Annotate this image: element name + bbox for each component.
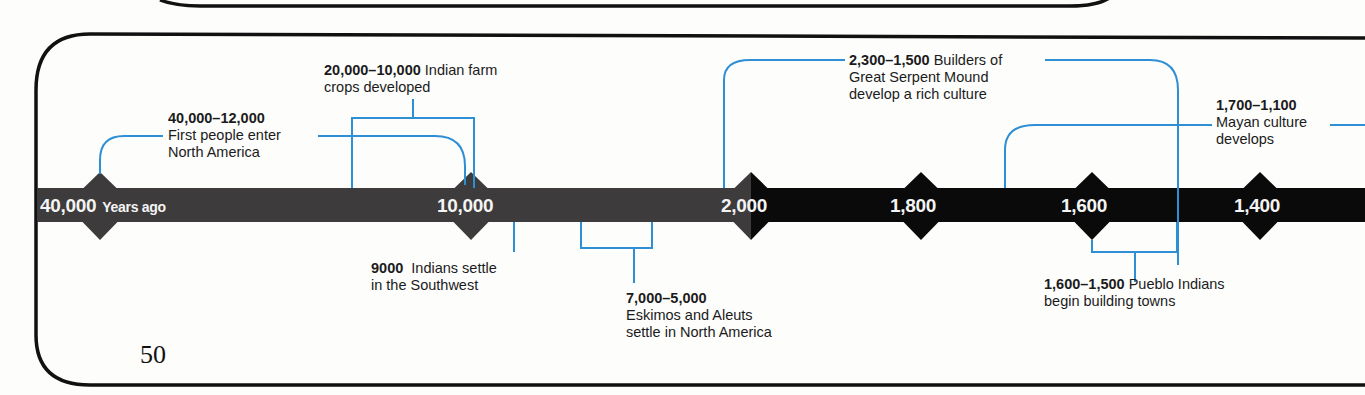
tick-label-1600: 1,600 — [1061, 195, 1107, 217]
event-text: Mayan culture — [1216, 114, 1307, 131]
event-text: North America — [168, 144, 281, 161]
event-7000-5000: 7,000–5,000 Eskimos and Aleuts settle in… — [626, 290, 772, 341]
event-range: 1,700–1,100 — [1216, 97, 1307, 114]
event-text: Builders of — [934, 52, 1003, 68]
tick-label-2000: 2,000 — [721, 195, 767, 217]
event-text: develops — [1216, 131, 1307, 148]
event-text: begin building towns — [1044, 293, 1225, 310]
connector-40000-12000-right — [318, 136, 465, 185]
event-1600-1500: 1,600–1,500 Pueblo Indians begin buildin… — [1044, 276, 1225, 310]
connector-2300-1500-left — [724, 60, 845, 188]
event-text: Pueblo Indians — [1129, 276, 1225, 292]
page-number: 50 — [140, 340, 166, 370]
event-1700-1100: 1,700–1,100 Mayan culture develops — [1216, 97, 1307, 148]
event-range: 1,600–1,500 — [1044, 276, 1125, 292]
previous-panel-border — [160, 0, 1112, 6]
connector-1700-1100-left — [1005, 125, 1212, 188]
connector-20000-10000 — [352, 99, 474, 188]
event-text: develop a rich culture — [849, 86, 1002, 103]
event-text: Indians settle — [411, 260, 496, 276]
connector-40000-12000 — [100, 136, 163, 174]
event-2300-1500: 2,300–1,500 Builders of Great Serpent Mo… — [849, 52, 1002, 103]
tick-label-40000: 40,000Years ago — [40, 195, 166, 218]
event-text: Indian farm — [425, 62, 498, 78]
tick-label-1800: 1,800 — [890, 195, 936, 217]
event-text: in the Southwest — [371, 277, 497, 294]
event-text: Great Serpent Mound — [849, 69, 1002, 86]
event-text: Eskimos and Aleuts — [626, 307, 772, 324]
tick-label-1400: 1,400 — [1234, 195, 1280, 217]
event-range: 20,000–10,000 — [324, 62, 421, 78]
connector-7000-5000 — [581, 222, 652, 283]
event-range: 2,300–1,500 — [849, 52, 930, 68]
event-40000-12000: 40,000–12,000 First people enter North A… — [168, 110, 281, 161]
event-range: 40,000–12,000 — [168, 110, 281, 127]
event-text: crops developed — [324, 79, 497, 96]
event-range: 7,000–5,000 — [626, 290, 772, 307]
tick-value: 40,000 — [40, 195, 96, 216]
event-9000: 9000 Indians settle in the Southwest — [371, 260, 497, 294]
tick-suffix: Years ago — [102, 199, 165, 215]
timeline-page: 40,000Years ago 10,000 2,000 1,800 1,600… — [0, 0, 1365, 395]
connector-2300-1500-right — [1045, 60, 1178, 265]
event-text: First people enter — [168, 127, 281, 144]
event-range: 9000 — [371, 260, 403, 276]
event-text: settle in North America — [626, 324, 772, 341]
tick-label-10000: 10,000 — [437, 195, 493, 217]
connector-1600-1500 — [1092, 222, 1177, 282]
event-20000-10000: 20,000–10,000 Indian farm crops develope… — [324, 62, 497, 96]
